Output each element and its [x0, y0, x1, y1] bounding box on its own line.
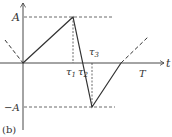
label-tau2: τ2: [78, 66, 89, 79]
label-t: t: [166, 57, 171, 70]
label-period: T: [139, 68, 147, 79]
label-neg-a: −A: [4, 102, 20, 113]
waveform-line: [23, 17, 121, 107]
waveform-diagram: A −A t T τ1 τ2 τ3 (b): [0, 0, 172, 137]
label-tau3: τ3: [89, 46, 100, 59]
prev-period-dashed: [5, 40, 23, 63]
next-period-dashed: [121, 37, 148, 63]
label-a: A: [11, 11, 20, 24]
label-tau1: τ1: [66, 66, 76, 79]
figure-caption: (b): [2, 124, 16, 135]
